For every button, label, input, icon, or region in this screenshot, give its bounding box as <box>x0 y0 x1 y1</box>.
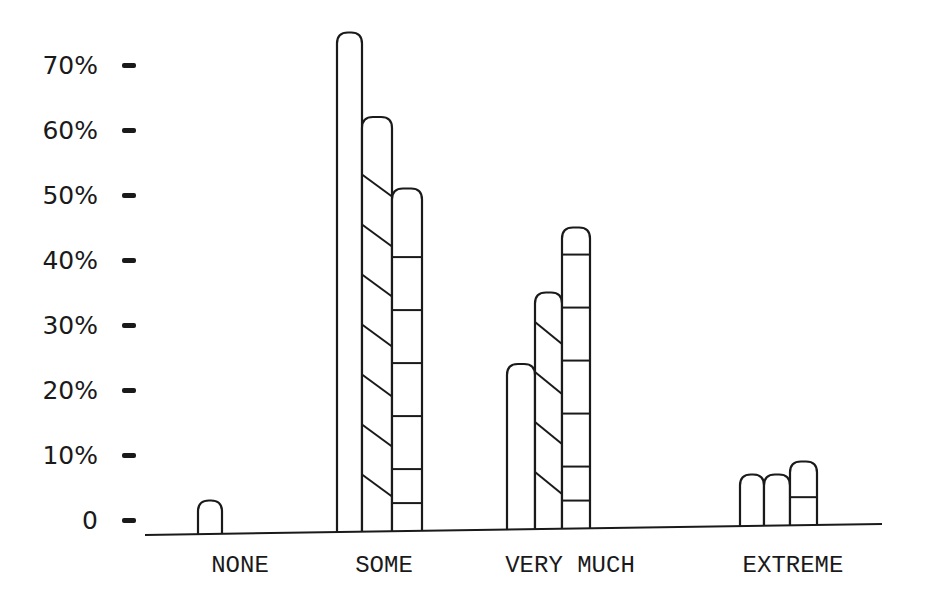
bar-diagonal <box>764 475 790 526</box>
x-axis-labels: NONESOMEVERY MUCHEXTREME <box>211 552 843 579</box>
y-tick-mark <box>122 193 136 198</box>
bar-group-none <box>198 501 222 535</box>
y-tick-label: 40% <box>42 246 98 275</box>
bar-horizontal <box>790 462 817 526</box>
y-tick-mark <box>122 518 136 523</box>
x-category-label: SOME <box>355 552 413 579</box>
y-tick-mark <box>122 128 136 133</box>
chart-canvas: 010%20%30%40%50%60%70% NONESOMEVERY MUCH… <box>0 0 931 613</box>
x-category-label: EXTREME <box>743 552 844 579</box>
y-tick-label: 70% <box>42 51 98 80</box>
bar-diagonal <box>362 117 392 532</box>
x-category-label: NONE <box>211 552 269 579</box>
y-tick-mark <box>122 453 136 458</box>
y-tick-label: 20% <box>42 376 98 405</box>
y-tick-label: 0 <box>82 506 98 535</box>
bar-plain <box>740 475 764 526</box>
bar-group-very-much <box>507 228 590 530</box>
y-tick-mark <box>122 258 136 263</box>
bar-horizontal <box>562 228 590 529</box>
bar-plain <box>507 364 535 529</box>
bar-plain <box>337 33 362 532</box>
y-tick-mark <box>122 63 136 68</box>
y-tick-label: 60% <box>42 116 98 145</box>
y-tick-label: 10% <box>42 441 98 470</box>
x-category-label: VERY MUCH <box>505 552 635 579</box>
bar-group-extreme <box>740 462 817 526</box>
y-tick-mark <box>122 388 136 393</box>
bar-horizontal <box>392 189 422 532</box>
bar-group-some <box>337 33 422 532</box>
bars <box>198 33 817 535</box>
bar-plain <box>198 501 222 535</box>
y-tick-label: 30% <box>42 311 98 340</box>
y-axis: 010%20%30%40%50%60%70% <box>42 51 136 535</box>
y-tick-label: 50% <box>42 181 98 210</box>
bar-chart: 010%20%30%40%50%60%70% NONESOMEVERY MUCH… <box>0 0 931 613</box>
bar-diagonal <box>535 293 562 529</box>
y-tick-mark <box>122 323 136 328</box>
